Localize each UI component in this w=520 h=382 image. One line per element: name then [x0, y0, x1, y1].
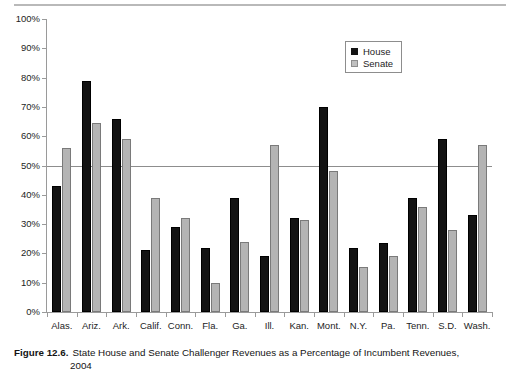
y-axis-tick-label: 60%: [4, 131, 40, 141]
bar-group: [141, 19, 161, 312]
bar-house: [408, 198, 417, 312]
bar-group: [201, 19, 221, 312]
x-axis-tick-mark: [433, 313, 434, 317]
figure-caption-label: Figure 12.6.: [14, 347, 68, 358]
y-axis-tick-label: 10%: [4, 278, 40, 288]
bar-senate: [478, 145, 487, 312]
bar-group: [438, 19, 458, 312]
legend-label-house: House: [363, 46, 390, 57]
x-axis-tick-mark: [195, 313, 196, 317]
legend-swatch-house-icon: [351, 48, 358, 55]
bar-senate: [151, 198, 160, 312]
bar-house: [260, 256, 269, 312]
y-axis-tick-label: 30%: [4, 219, 40, 229]
x-axis-tick-mark: [462, 313, 463, 317]
bar-group: [408, 19, 428, 312]
bar-house: [349, 248, 358, 312]
x-axis-tick-mark: [373, 313, 374, 317]
x-axis-tick-mark: [403, 313, 404, 317]
x-axis-tick-mark: [106, 313, 107, 317]
legend-item-house: House: [351, 45, 393, 57]
y-axis-tick-label: 50%: [4, 161, 40, 171]
bar-group: [230, 19, 250, 312]
bar-group: [112, 19, 132, 312]
bar-senate: [92, 123, 101, 312]
x-axis-tick-mark: [166, 313, 167, 317]
bar-senate: [448, 230, 457, 312]
x-axis-tick-label: Wash.: [454, 320, 500, 331]
x-axis-line: [46, 312, 493, 313]
bar-group: [52, 19, 72, 312]
bar-house: [141, 250, 150, 312]
legend-label-senate: Senate: [363, 58, 393, 69]
y-axis-tick-label: 70%: [4, 102, 40, 112]
bar-group: [260, 19, 280, 312]
x-axis-tick-mark: [314, 313, 315, 317]
bar-group: [319, 19, 339, 312]
bar-group: [468, 19, 488, 312]
bar-house: [112, 119, 121, 312]
bar-senate: [389, 256, 398, 312]
bar-house: [468, 215, 477, 312]
bar-house: [52, 186, 61, 312]
chart-legend: House Senate: [345, 41, 402, 73]
figure-caption-year: 2004: [70, 359, 506, 372]
y-axis-tick-label: 100%: [4, 14, 40, 24]
bar-house: [82, 81, 91, 312]
figure-12-6: 100%90%80%70%60%50%40%30%20%10%0% Alas.A…: [0, 0, 520, 382]
x-axis-tick-mark: [47, 313, 48, 317]
bar-house: [438, 139, 447, 312]
bar-senate: [300, 220, 309, 312]
y-axis-tick-label: 80%: [4, 73, 40, 83]
bar-senate: [270, 145, 279, 312]
y-axis-tick-label: 20%: [4, 248, 40, 258]
bar-house: [201, 248, 210, 312]
bar-house: [230, 198, 239, 312]
y-axis-tick-label: 0%: [4, 307, 40, 317]
bar-senate: [181, 218, 190, 312]
bar-house: [319, 107, 328, 312]
x-axis-tick-mark: [77, 313, 78, 317]
bar-senate: [62, 148, 71, 312]
bar-senate: [329, 171, 338, 312]
figure-caption: Figure 12.6.State House and Senate Chall…: [14, 346, 506, 372]
bar-house: [290, 218, 299, 312]
bar-senate: [240, 242, 249, 312]
bar-senate: [122, 139, 131, 312]
bar-group: [82, 19, 102, 312]
y-axis-tick-label: 40%: [4, 190, 40, 200]
bar-group: [171, 19, 191, 312]
bar-house: [379, 243, 388, 312]
x-axis-tick-mark: [255, 313, 256, 317]
plot-area: [47, 19, 492, 312]
x-axis-tick-mark: [225, 313, 226, 317]
x-axis-tick-mark: [136, 313, 137, 317]
legend-swatch-senate-icon: [351, 60, 358, 67]
bar-senate: [359, 267, 368, 312]
x-axis-tick-mark: [284, 313, 285, 317]
x-axis-tick-mark: [492, 313, 493, 317]
legend-item-senate: Senate: [351, 57, 393, 69]
y-axis-tick-label: 90%: [4, 43, 40, 53]
bar-senate: [211, 283, 220, 312]
bar-senate: [418, 207, 427, 312]
x-axis-tick-mark: [344, 313, 345, 317]
figure-caption-text: State House and Senate Challenger Revenu…: [72, 347, 459, 358]
bar-house: [171, 227, 180, 312]
bar-group: [290, 19, 310, 312]
